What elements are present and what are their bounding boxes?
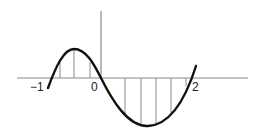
tick-label-neg-one: −1	[30, 81, 44, 93]
cubic-curve	[48, 49, 196, 126]
graph-canvas	[0, 0, 262, 136]
tick-label-zero: 0	[91, 81, 98, 93]
hatch-lines-negative	[125, 78, 186, 125]
tick-label-two: 2	[192, 81, 199, 93]
cubic-graph-figure: −1 0 2	[0, 0, 262, 136]
